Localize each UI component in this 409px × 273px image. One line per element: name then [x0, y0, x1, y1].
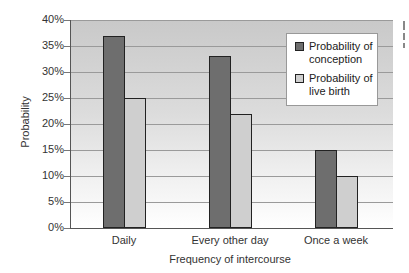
- y-tick-label: 40%: [30, 13, 64, 25]
- bar-live-birth: [124, 98, 146, 228]
- bar-live-birth: [336, 176, 358, 228]
- y-tick-label: 20%: [30, 117, 64, 129]
- legend-swatch-light: [295, 74, 304, 83]
- bar-conception: [103, 36, 125, 228]
- legend-label: Probability of conception: [309, 40, 373, 65]
- legend-item-live-birth: Probability of live birth: [295, 72, 373, 98]
- y-tick-label: 35%: [30, 39, 64, 51]
- x-axis-title: Frequency of intercourse: [130, 253, 330, 265]
- bar-live-birth: [230, 114, 252, 228]
- legend: Probability of conception Probability of…: [286, 33, 378, 106]
- cropped-text-fragment: [403, 21, 405, 30]
- y-tick-label: 15%: [30, 143, 64, 155]
- bar-conception: [315, 150, 337, 228]
- y-tick-label: 30%: [30, 65, 64, 77]
- y-tick-label: 5%: [30, 195, 64, 207]
- cropped-text-fragment: [403, 43, 405, 48]
- legend-item-conception: Probability of conception: [295, 40, 373, 66]
- gridline: [71, 20, 393, 21]
- y-tick-label: 0%: [30, 221, 64, 233]
- y-tick-label: 10%: [30, 169, 64, 181]
- bar-conception: [209, 56, 231, 228]
- y-tick-label: 25%: [30, 91, 64, 103]
- x-tick-label: Daily: [74, 234, 174, 246]
- x-tick-label: Once a week: [286, 234, 386, 246]
- legend-swatch-dark: [295, 42, 304, 51]
- x-tick-label: Every other day: [180, 234, 280, 246]
- legend-label: Probability of live birth: [309, 72, 373, 97]
- cropped-text-fragment: [403, 33, 405, 40]
